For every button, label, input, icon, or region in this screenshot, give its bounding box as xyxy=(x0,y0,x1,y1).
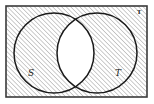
venn-diagram-canvas: S T ᵁ xyxy=(0,0,154,104)
venn-diagram-figure: S T ᵁ Rectangular universal set with dia… xyxy=(0,0,154,104)
set-t-label: T xyxy=(115,68,122,78)
set-s-label: S xyxy=(28,68,34,78)
